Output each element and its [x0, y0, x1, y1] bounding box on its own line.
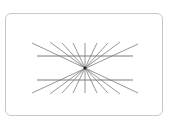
hering-illusion-figure	[0, 0, 175, 124]
vanishing-point	[83, 66, 86, 69]
